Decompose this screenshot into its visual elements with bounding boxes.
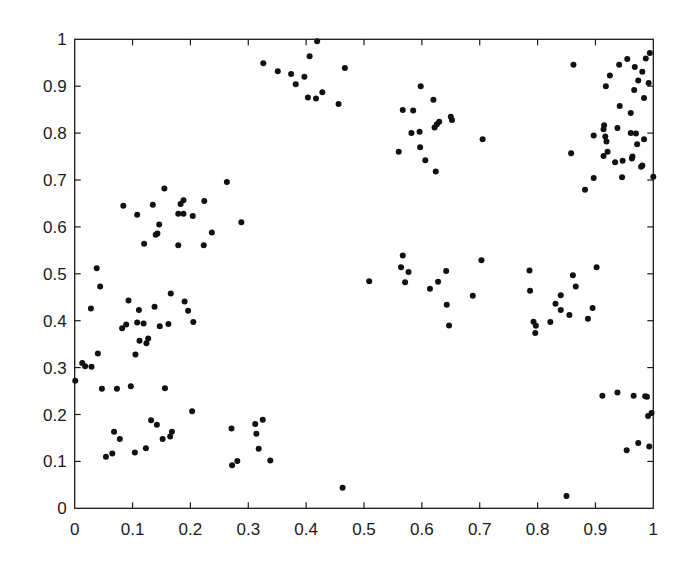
data-point [128,383,134,389]
data-point [638,164,644,170]
data-point [422,157,428,163]
data-point [614,125,620,131]
data-point [229,462,235,468]
data-point [591,175,597,181]
data-point [594,264,600,270]
data-point [478,257,484,263]
data-point [141,241,147,247]
data-point [603,83,609,89]
y-tick-label: 0.9 [43,77,67,96]
data-point [400,253,406,259]
data-point [319,89,325,95]
data-point [649,410,655,416]
data-point [396,149,402,155]
data-point [533,323,539,329]
y-tick-label: 0.5 [43,265,67,284]
data-point [620,158,626,164]
data-point [109,450,115,456]
data-point [253,431,259,437]
data-point [526,268,532,274]
data-point [449,117,455,123]
data-point [417,129,423,135]
data-point [169,429,175,435]
data-point [103,454,109,460]
data-point [591,132,597,138]
data-point [153,232,159,238]
data-point [224,179,230,185]
data-point [342,65,348,71]
data-point [641,95,647,101]
data-point [314,38,320,44]
y-tick-label: 0.8 [43,124,67,143]
data-point [117,436,123,442]
data-point [639,69,645,75]
x-tick-label: 0.3 [236,520,260,539]
x-tick-label: 0.7 [468,520,492,539]
data-point [82,363,88,369]
data-point [616,62,622,68]
data-point [260,417,266,423]
data-point [161,185,167,191]
data-point [238,219,244,225]
data-point [165,321,171,327]
data-point [480,136,486,142]
data-point [175,242,181,248]
data-point [88,364,94,370]
x-tick-label: 0.2 [179,520,203,539]
y-axis-tick-labels: 00.10.20.30.40.50.60.70.80.91 [43,30,67,518]
data-point [72,378,78,384]
data-point [88,306,94,312]
data-point [607,72,613,78]
data-point [182,298,188,304]
data-point [632,64,638,70]
data-point [154,422,160,428]
y-tick-label: 0.4 [43,312,67,331]
data-point [553,301,559,307]
data-point [313,95,319,101]
data-point [134,320,140,326]
data-point [427,286,433,292]
x-tick-label: 1 [649,520,658,539]
data-point [114,386,120,392]
data-point [628,110,634,116]
data-point [446,322,452,328]
data-point [160,436,166,442]
data-point [126,298,132,304]
data-point [157,323,163,329]
data-point [470,293,476,299]
data-point [111,429,117,435]
data-point [644,394,650,400]
data-point [340,485,346,491]
data-point [435,279,441,285]
data-point [336,101,342,107]
data-point [132,351,138,357]
data-point [444,302,450,308]
data-point [570,62,576,68]
data-point [307,53,313,59]
data-point [156,222,162,228]
data-point [406,269,412,275]
data-point [532,330,538,336]
data-point [132,449,138,455]
data-point [267,457,273,463]
data-point [275,68,281,74]
data-point [398,264,404,270]
x-tick-label: 0.8 [526,520,550,539]
data-point [619,174,625,180]
data-point [256,446,262,452]
data-point [603,139,609,145]
data-point [180,211,186,217]
data-point [558,307,564,313]
data-point [430,97,436,103]
data-point [602,133,608,139]
data-point [190,319,196,325]
y-tick-label: 0.2 [43,406,67,425]
data-point [175,211,181,217]
data-point [143,445,149,451]
data-point [229,426,235,432]
data-point [134,212,140,218]
data-point [120,203,126,209]
data-point [162,385,168,391]
data-point [585,316,591,322]
data-point [629,155,635,161]
